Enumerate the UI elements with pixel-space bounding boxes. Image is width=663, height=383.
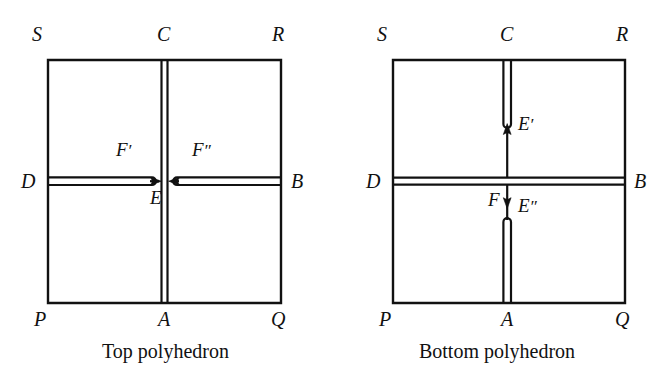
slit-D-to-E <box>48 177 161 185</box>
label-F-prime: F′ <box>116 140 131 159</box>
label-E-double-prime-marks: ″ <box>530 196 537 216</box>
caption-top-polyhedron: Top polyhedron <box>0 341 331 361</box>
label-B: B <box>291 171 303 191</box>
label-F-prime-marks: ′ <box>128 140 131 160</box>
square-outline <box>48 60 281 303</box>
slit-Edoubleprime-to-A <box>503 185 511 303</box>
label-E-double-prime: E″ <box>518 196 537 215</box>
label-F-double-prime: F″ <box>192 140 211 159</box>
horizontal-slit-D-B <box>393 178 625 185</box>
label-E-double-prime-base: E <box>518 195 530 216</box>
label-C: C <box>157 24 170 44</box>
caption-bottom-polyhedron: Bottom polyhedron <box>331 341 663 361</box>
label-P: P <box>379 309 391 329</box>
label-A: A <box>501 309 513 329</box>
label-S: S <box>377 24 387 44</box>
label-D: D <box>366 171 380 191</box>
label-R: R <box>272 24 284 44</box>
slit-C-to-Eprime <box>503 60 511 177</box>
label-E-prime-base: E <box>518 113 530 134</box>
label-F-double-prime-base: F <box>192 139 204 160</box>
label-P: P <box>34 309 46 329</box>
label-F-prime-base: F <box>116 139 128 160</box>
label-R: R <box>616 24 628 44</box>
label-C: C <box>500 24 513 44</box>
label-D: D <box>21 171 35 191</box>
panel-top-polyhedron: S C R D B P A Q F′ F″ E Top polyhedron <box>0 0 331 383</box>
label-F-double-prime-marks: ″ <box>204 140 211 160</box>
label-B: B <box>634 171 646 191</box>
figure-root: S C R D B P A Q F′ F″ E Top polyhedron <box>0 0 663 383</box>
square-outline <box>393 60 625 303</box>
slit-B-to-E <box>169 177 281 185</box>
label-E-prime-marks: ′ <box>530 114 533 134</box>
label-Q: Q <box>271 309 285 329</box>
label-E: E <box>150 188 162 207</box>
label-A: A <box>158 309 170 329</box>
vertical-slit-C-A <box>162 60 168 303</box>
panel-bottom-polyhedron: S C R D B P A Q E′ F E″ Bottom polyhedro… <box>331 0 663 383</box>
label-Q: Q <box>615 309 629 329</box>
label-F: F <box>488 190 500 209</box>
label-S: S <box>32 24 42 44</box>
label-E-prime: E′ <box>518 114 533 133</box>
